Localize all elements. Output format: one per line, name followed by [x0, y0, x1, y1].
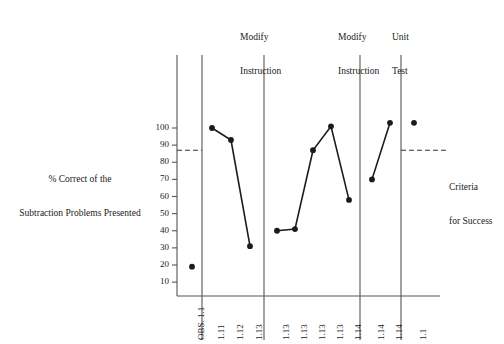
phase-header-modify-instruction-1: Modify Instruction [240, 10, 281, 100]
data-point-marker [369, 176, 375, 182]
criteria-annotation-line1: Criteria [449, 182, 493, 193]
phase-header-line2: Test [392, 66, 409, 77]
y-axis-title: % Correct of the Subtraction Problems Pr… [0, 152, 160, 242]
data-point-marker [346, 197, 352, 203]
phase-header-line1: Modify [240, 32, 281, 43]
x-tick-label-11: 1.1 [418, 329, 429, 340]
x-tick-label-1: 1.11 [216, 325, 227, 340]
data-point-marker [228, 137, 234, 143]
criteria-annotation: Criteria for Success [449, 160, 493, 250]
x-tick-label-4: 1.13 [281, 324, 292, 340]
data-point-marker [189, 264, 195, 270]
y-tick-label-50: 50 [143, 208, 169, 219]
series-line-phase-2 [212, 128, 250, 246]
y-tick-label-100: 100 [143, 122, 169, 133]
y-tick-label-90: 90 [143, 139, 169, 150]
phase-header-line2: Instruction [338, 66, 379, 77]
data-point-marker [328, 123, 334, 129]
chart-figure: % Correct of the Subtraction Problems Pr… [0, 0, 504, 344]
y-axis-title-line1: % Correct of the [0, 174, 160, 185]
series-line-phase-4 [372, 123, 390, 180]
x-tick-label-10: 1.14 [394, 324, 405, 340]
y-axis-tick-marks [172, 128, 177, 282]
x-tick-label-6: 1.13 [317, 324, 328, 340]
x-tick-label-3: 1.13 [254, 324, 265, 340]
x-tick-label-5: 1.13 [299, 324, 310, 340]
data-point-marker [247, 243, 253, 249]
x-tick-label-7: 1.13 [335, 324, 346, 340]
data-point-marker [310, 147, 316, 153]
y-tick-label-40: 40 [143, 225, 169, 236]
phase-header-modify-instruction-2: Modify Instruction [338, 10, 379, 100]
phase-header-line1: Unit [392, 32, 409, 43]
y-tick-label-80: 80 [143, 156, 169, 167]
data-series [189, 120, 417, 270]
criteria-annotation-line2: for Success [449, 216, 493, 227]
phase-header-line1: Modify [338, 32, 379, 43]
y-tick-label-70: 70 [143, 173, 169, 184]
y-tick-label-10: 10 [143, 276, 169, 287]
data-point-marker [411, 120, 417, 126]
data-point-marker [292, 226, 298, 232]
y-tick-label-30: 30 [143, 242, 169, 253]
data-point-marker [387, 120, 393, 126]
series-line-phase-3 [277, 126, 349, 230]
x-tick-label-9: 1.14 [376, 324, 387, 340]
y-tick-label-60: 60 [143, 191, 169, 202]
data-point-marker [274, 228, 280, 234]
phase-header-line2: Instruction [240, 66, 281, 77]
x-tick-label-0: OBS. 1.1 [196, 307, 207, 340]
y-tick-label-20: 20 [143, 259, 169, 270]
x-tick-label-2: 1.12 [235, 324, 246, 340]
x-tick-label-8: 1.14 [353, 324, 364, 340]
phase-header-unit-test: Unit Test [392, 10, 409, 100]
y-axis-title-line2: Subtraction Problems Presented [0, 208, 160, 219]
data-point-marker [209, 125, 215, 131]
